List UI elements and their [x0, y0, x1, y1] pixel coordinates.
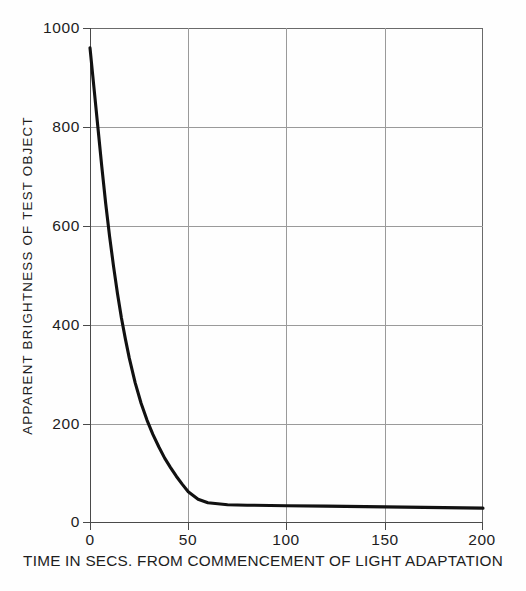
figure-chart: APPARENT BRIGHTNESS OF TEST OBJECT 1000 … [0, 0, 526, 591]
y-tick-1000 [83, 28, 90, 29]
y-tick-200 [83, 424, 90, 425]
x-tick-label-0: 0 [85, 531, 94, 549]
x-tick-label-150: 150 [371, 531, 399, 549]
y-tick-label-400: 400 [52, 316, 80, 334]
plot-area: 1000 800 600 400 200 0 0 50 100 150 200 [90, 28, 483, 523]
y-axis-title: APPARENT BRIGHTNESS OF TEST OBJECT [16, 28, 38, 523]
x-tick-label-100: 100 [272, 531, 300, 549]
y-tick-label-0: 0 [71, 513, 80, 531]
y-tick-label-800: 800 [52, 118, 80, 136]
x-tick-150 [385, 523, 386, 530]
y-tick-400 [83, 325, 90, 326]
x-axis-title: TIME IN SECS. FROM COMMENCEMENT OF LIGHT… [0, 552, 526, 570]
y-tick-label-600: 600 [52, 217, 80, 235]
series-line-apparent-brightness [90, 48, 483, 508]
x-tick-label-200: 200 [468, 531, 496, 549]
y-tick-0 [83, 522, 90, 523]
data-curve-svg [90, 28, 483, 523]
x-tick-50 [188, 523, 189, 530]
x-tick-200 [482, 523, 483, 530]
y-tick-600 [83, 226, 90, 227]
x-tick-100 [286, 523, 287, 530]
x-tick-0 [90, 523, 91, 530]
x-tick-label-50: 50 [179, 531, 197, 549]
y-tick-label-200: 200 [52, 415, 80, 433]
y-axis-title-text: APPARENT BRIGHTNESS OF TEST OBJECT [20, 116, 35, 435]
y-tick-label-1000: 1000 [43, 19, 80, 37]
y-tick-800 [83, 127, 90, 128]
